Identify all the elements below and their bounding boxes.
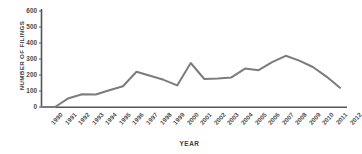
x-tick-label: 1994 xyxy=(104,111,119,126)
x-tick-label: 2010 xyxy=(321,111,336,126)
x-tick-label: 1991 xyxy=(63,111,78,126)
x-tick-label: 2005 xyxy=(253,111,268,126)
x-tick-label: 2012 xyxy=(348,111,362,126)
x-tick-label: 1995 xyxy=(117,111,132,126)
x-tick-label: 2007 xyxy=(280,111,295,126)
x-tick-label: 1990 xyxy=(49,111,64,126)
x-tick-label: 1996 xyxy=(131,111,146,126)
x-tick-label: 2004 xyxy=(239,111,254,126)
x-tick-label: 2008 xyxy=(294,111,309,126)
x-tick-label: 2011 xyxy=(334,111,348,126)
x-tick-label: 1993 xyxy=(90,111,105,126)
x-tick-label: 1999 xyxy=(171,111,186,126)
x-tick-label: 1992 xyxy=(77,111,92,126)
x-tick-label: 2002 xyxy=(212,111,227,126)
x-tick-label: 2001 xyxy=(199,111,214,126)
x-tick-label: 1998 xyxy=(158,111,173,126)
x-tick-label: 1997 xyxy=(144,111,159,126)
x-axis-title: YEAR xyxy=(0,140,355,147)
x-tick-label: 2006 xyxy=(266,111,281,126)
x-tick-label: 2003 xyxy=(226,111,241,126)
x-tick-label: 2000 xyxy=(185,111,200,126)
x-tick-label: 2009 xyxy=(307,111,322,126)
